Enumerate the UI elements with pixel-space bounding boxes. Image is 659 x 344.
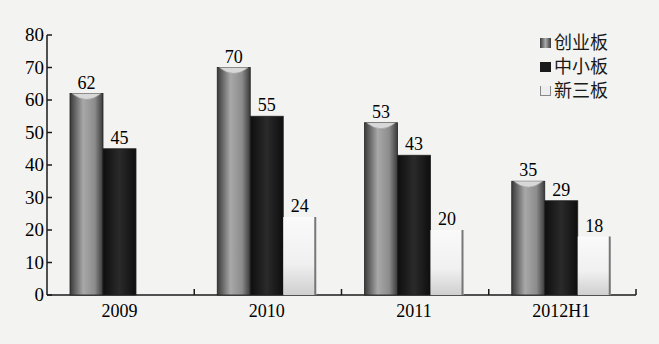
legend-label: 中小板 xyxy=(554,55,608,79)
bars xyxy=(70,68,611,296)
value-label: 62 xyxy=(78,73,96,93)
y-tick-label: 30 xyxy=(25,187,44,208)
bar xyxy=(217,68,250,296)
value-label: 53 xyxy=(372,102,390,122)
value-label: 35 xyxy=(519,160,537,180)
bar xyxy=(545,201,578,295)
x-category-label: 2009 xyxy=(102,301,138,321)
legend-item-chuangyeban: 创业板 xyxy=(540,31,608,55)
legend: 创业板 中小板 新三板 xyxy=(540,31,608,103)
y-tick-label: 0 xyxy=(35,284,45,305)
value-label: 29 xyxy=(552,180,570,200)
y-tick-label: 50 xyxy=(25,122,44,143)
bar xyxy=(578,237,611,296)
value-label: 55 xyxy=(258,95,276,115)
y-tick-label: 20 xyxy=(25,219,44,240)
y-tick-label: 80 xyxy=(25,24,44,45)
value-label: 45 xyxy=(111,128,129,148)
swatch-icon xyxy=(540,86,551,96)
value-label: 24 xyxy=(291,196,309,216)
value-label: 43 xyxy=(405,134,423,154)
value-label: 70 xyxy=(225,47,243,67)
bar xyxy=(70,94,103,296)
value-label: 18 xyxy=(585,216,603,236)
bar xyxy=(512,181,545,295)
bar xyxy=(283,217,316,295)
x-category-label: 2012H1 xyxy=(532,301,590,321)
value-label: 20 xyxy=(438,209,456,229)
x-category-label: 2010 xyxy=(249,301,285,321)
swatch-icon xyxy=(540,62,551,72)
legend-item-zhongxiaoban: 中小板 xyxy=(540,55,608,79)
swatch-icon xyxy=(540,38,551,48)
bar xyxy=(431,230,464,295)
x-category-label: 2011 xyxy=(396,301,431,321)
y-tick-label: 10 xyxy=(25,252,44,273)
legend-label: 创业板 xyxy=(554,31,608,55)
y-tick-label: 60 xyxy=(25,89,44,110)
y-tick-label: 40 xyxy=(25,154,44,175)
bar xyxy=(250,116,283,295)
bar xyxy=(103,149,136,295)
legend-item-xinsanban: 新三板 xyxy=(540,79,608,103)
bar xyxy=(398,155,431,295)
legend-label: 新三板 xyxy=(554,79,608,103)
y-tick-label: 70 xyxy=(25,57,44,78)
bar xyxy=(365,123,398,295)
